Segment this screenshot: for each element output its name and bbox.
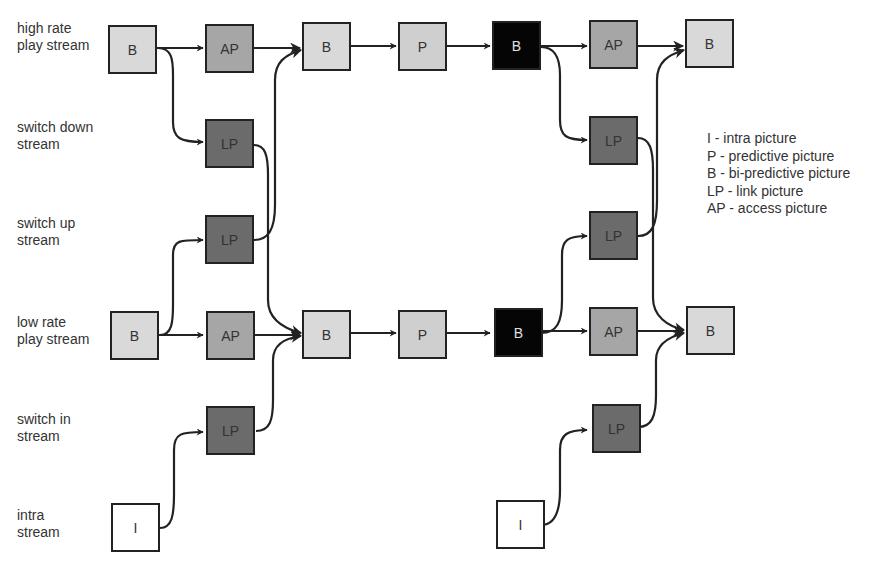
arrow-h0-sd1: [158, 48, 203, 142]
node-b-high-4: B: [492, 21, 541, 70]
node-b-low-0: B: [110, 311, 159, 360]
arrow-i0-si1: [160, 432, 203, 528]
legend-item-intra-picture: I - intra picture: [707, 130, 850, 148]
arrow-si1-l2: [256, 336, 301, 431]
node-b-high-0: B: [108, 25, 157, 74]
node-ap-low-1: AP: [206, 311, 255, 360]
node-b-low-6: B: [686, 306, 735, 355]
node-b-low-4: B: [494, 308, 543, 357]
arrow-l4-su5: [541, 236, 587, 333]
node-lp-switch-up-5: LP: [589, 211, 638, 260]
arrow-su1-h2: [254, 50, 301, 240]
node-lp-switch-in-1: LP: [206, 406, 255, 455]
arrow-i4-si5: [541, 430, 587, 525]
node-lp-switch-up-1: LP: [205, 215, 254, 264]
node-ap-low-5: AP: [589, 307, 638, 356]
node-ap-high-1: AP: [205, 24, 254, 73]
legend: I - intra picture P - predictive picture…: [707, 130, 850, 218]
legend-item-link-picture: LP - link picture: [707, 183, 850, 201]
legend-item-bi-predictive-picture: B - bi-predictive picture: [707, 165, 850, 183]
node-lp-switch-down-5: LP: [589, 116, 638, 165]
arrow-si5-l6: [638, 333, 684, 427]
node-lp-switch-in-5: LP: [592, 404, 641, 453]
node-ap-high-5: AP: [589, 20, 638, 69]
node-p-low-3: P: [398, 310, 447, 359]
node-b-low-2: B: [302, 310, 351, 359]
node-b-high-6: B: [685, 19, 734, 68]
dependency-arrows: [0, 0, 879, 566]
node-b-high-2: B: [302, 22, 351, 71]
node-i-intra-4: I: [496, 500, 545, 549]
node-i-intra-0: I: [111, 503, 160, 552]
legend-item-access-picture: AP - access picture: [707, 200, 850, 218]
node-lp-switch-down-1: LP: [205, 119, 254, 168]
arrow-l0-su1: [160, 240, 203, 335]
legend-item-predictive-picture: P - predictive picture: [707, 148, 850, 166]
arrow-su5-h6: [638, 50, 684, 236]
node-p-high-3: P: [398, 22, 447, 71]
arrow-h4-sd5: [541, 47, 587, 140]
